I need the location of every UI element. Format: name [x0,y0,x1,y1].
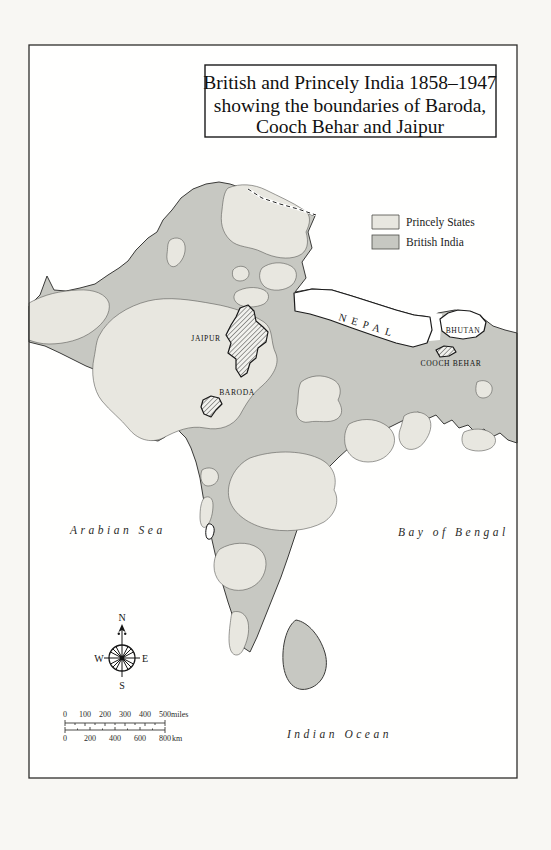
legend-princely-label: Princely States [406,216,475,229]
km-tick-800: 800 [159,734,171,743]
legend-british-label: British India [406,236,464,248]
legend-british-swatch [372,235,399,249]
compass-west-label: W [94,653,104,664]
map-title-line3: Cooch Behar and Jaipur [256,116,444,137]
indian-ocean-label: Indian Ocean [286,728,392,740]
compass-north-label: N [118,612,125,623]
miles-unit-label: miles [171,710,188,719]
map-title-line1: British and Princely India 1858–1947 [203,72,497,93]
india-map-figure: JAIPUR BARODA BHUTAN COOCH BEHAR NEPAL A… [0,0,551,850]
km-tick-600: 600 [134,734,146,743]
km-tick-400: 400 [109,734,121,743]
legend-princely-swatch [372,215,399,229]
km-tick-200: 200 [84,734,96,743]
miles-tick-0: 0 [63,710,67,719]
map-title-line2: showing the boundaries of Baroda, [214,95,486,116]
km-tick-0: 0 [63,734,67,743]
arabian-sea-label: Arabian Sea [69,524,166,536]
miles-tick-500: 500 [159,710,171,719]
cooch-behar-label: COOCH BEHAR [421,359,482,368]
bay-of-bengal-label: Bay of Bengal [398,526,509,539]
compass-south-label: S [119,680,125,691]
bhutan-label: BHUTAN [446,326,481,335]
miles-tick-100: 100 [79,710,91,719]
jaipur-label: JAIPUR [191,334,221,343]
compass-east-label: E [142,653,148,664]
book-page: JAIPUR BARODA BHUTAN COOCH BEHAR NEPAL A… [0,0,551,850]
princely-region-hyderabad [228,452,336,531]
miles-tick-300: 300 [119,710,131,719]
miles-tick-400: 400 [139,710,151,719]
miles-tick-200: 200 [99,710,111,719]
baroda-label: BARODA [219,388,255,397]
km-unit-label: km [172,734,183,743]
title-box: British and Princely India 1858–1947 sho… [203,65,497,137]
